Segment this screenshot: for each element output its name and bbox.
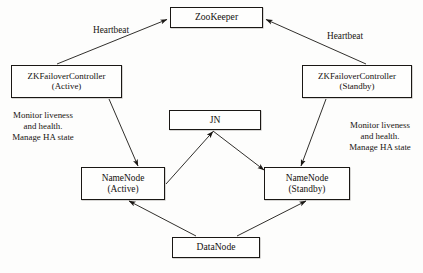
node-datanode-label: DataNode [197, 242, 236, 253]
edge-label-heartbeat-left: Heartbeat [82, 25, 140, 36]
node-namenode-standby[interactable]: NameNode (Standby) [264, 167, 350, 200]
edge-zkfc-standby-to-namenode-standby [301, 99, 326, 166]
edge-jn-to-namenode-standby [213, 131, 264, 170]
node-zookeeper[interactable]: ZooKeeper [170, 7, 263, 28]
edge-label-monitor-left-line-3: Manage HA state [2, 132, 84, 143]
node-namenode-standby-state: (Standby) [289, 184, 326, 195]
node-zkfailovercontroller-standby-label: ZKFailoverController [318, 72, 396, 82]
node-datanode[interactable]: DataNode [172, 237, 260, 258]
node-namenode-active-label: NameNode [102, 173, 145, 184]
node-zookeeper-label: ZooKeeper [195, 12, 238, 23]
node-zkfailovercontroller-standby-state: (Standby) [339, 82, 374, 92]
diagram-canvas: ZooKeeper ZKFailoverController (Active) … [0, 0, 423, 273]
node-jn-label: JN [210, 115, 221, 126]
edge-zkfc-active-to-namenode-active [109, 99, 138, 166]
node-zkfailovercontroller-active-label: ZKFailoverController [28, 72, 106, 82]
edge-label-monitor-left-line-2: and health. [2, 121, 84, 132]
edge-label-heartbeat-left-line-1: Heartbeat [82, 25, 140, 36]
edge-label-heartbeat-right-line-1: Heartbeat [316, 31, 374, 42]
edge-label-monitor-right: Monitor liveness and health. Manage HA s… [337, 120, 423, 153]
node-zkfailovercontroller-active[interactable]: ZKFailoverController (Active) [11, 65, 122, 98]
edge-label-monitor-right-line-3: Manage HA state [337, 142, 423, 153]
edge-namenode-active-to-jn [166, 132, 213, 185]
node-zkfailovercontroller-standby[interactable]: ZKFailoverController (Standby) [302, 65, 412, 98]
node-jn[interactable]: JN [169, 110, 261, 130]
edge-label-monitor-right-line-1: Monitor liveness [337, 120, 423, 131]
edge-datanode-to-namenode-active [129, 201, 196, 236]
edge-label-heartbeat-right: Heartbeat [316, 31, 374, 42]
edge-label-monitor-right-line-2: and health. [337, 131, 423, 142]
edge-label-monitor-left: Monitor liveness and health. Manage HA s… [2, 110, 84, 143]
node-zkfailovercontroller-active-state: (Active) [52, 82, 82, 92]
node-namenode-active[interactable]: NameNode (Active) [81, 167, 165, 200]
node-namenode-standby-label: NameNode [286, 173, 329, 184]
edge-label-monitor-left-line-1: Monitor liveness [2, 110, 84, 121]
edge-datanode-to-namenode-standby [237, 201, 306, 236]
node-namenode-active-state: (Active) [107, 184, 138, 195]
